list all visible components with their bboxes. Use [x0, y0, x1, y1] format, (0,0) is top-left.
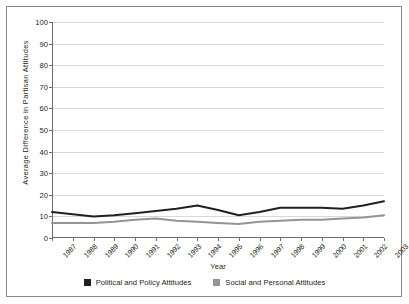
- y-axis-title: Average Difference in Partisan Attitudes: [21, 0, 30, 228]
- x-tick-mark: [260, 238, 261, 241]
- x-tick-mark: [114, 238, 115, 241]
- y-tick-label: 90: [40, 39, 48, 48]
- x-tick-mark: [363, 238, 364, 241]
- y-tick-label: 80: [40, 61, 48, 70]
- series-line: [52, 201, 384, 216]
- x-tick-mark: [384, 238, 385, 241]
- x-tick-mark: [52, 238, 53, 241]
- plot-area: 0102030405060708090100 19871988198919901…: [52, 22, 384, 238]
- x-tick-mark: [322, 238, 323, 241]
- x-tick-mark: [239, 238, 240, 241]
- x-tick-mark: [197, 238, 198, 241]
- x-tick-mark: [301, 238, 302, 241]
- legend-swatch: [213, 279, 220, 286]
- legend-item[interactable]: Political and Policy Attitudes: [84, 278, 192, 287]
- y-tick-label: 0: [44, 234, 48, 243]
- chart-figure: Average Difference in Partisan Attitudes…: [0, 0, 409, 304]
- x-tick-mark: [135, 238, 136, 241]
- legend-label: Social and Personal Attitudes: [225, 278, 325, 287]
- chart-legend: Political and Policy AttitudesSocial and…: [0, 278, 409, 287]
- x-tick-mark: [94, 238, 95, 241]
- x-tick-mark: [218, 238, 219, 241]
- y-tick-label: 60: [40, 104, 48, 113]
- data-series-lines: [52, 22, 384, 238]
- y-tick-label: 10: [40, 212, 48, 221]
- x-tick-mark: [280, 238, 281, 241]
- x-axis-title: Year: [52, 262, 384, 271]
- x-tick-mark: [177, 238, 178, 241]
- y-tick-label: 100: [35, 18, 48, 27]
- y-tick-label: 40: [40, 147, 48, 156]
- y-tick-label: 30: [40, 169, 48, 178]
- x-tick-mark: [343, 238, 344, 241]
- x-tick-mark: [73, 238, 74, 241]
- legend-label: Political and Policy Attitudes: [96, 278, 192, 287]
- legend-swatch: [84, 279, 91, 286]
- y-tick-label: 70: [40, 82, 48, 91]
- x-tick-mark: [156, 238, 157, 241]
- y-tick-label: 20: [40, 190, 48, 199]
- legend-item[interactable]: Social and Personal Attitudes: [213, 278, 325, 287]
- y-tick-label: 50: [40, 126, 48, 135]
